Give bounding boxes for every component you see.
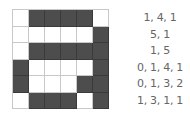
grid-cell: [45, 43, 61, 60]
grid-cell: [45, 60, 61, 77]
grid-cell: [61, 60, 77, 77]
run-length-encoding-list: 1, 4, 1 5, 1 1, 5 0, 1, 4, 1 0, 1, 3, 2 …: [132, 10, 188, 109]
grid-cell: [77, 43, 93, 60]
encoding-row-5: 0, 1, 3, 2: [132, 76, 188, 93]
encoding-row-2: 5, 1: [132, 27, 188, 44]
grid-cell: [13, 27, 29, 44]
grid-cell: [77, 10, 93, 27]
grid-cell: [13, 10, 29, 27]
grid-cell: [61, 76, 77, 93]
grid-cell: [93, 93, 109, 110]
grid-cell: [13, 43, 29, 60]
grid-cell: [93, 60, 109, 77]
grid-cell: [61, 43, 77, 60]
grid-cell: [93, 43, 109, 60]
grid-cell: [77, 76, 93, 93]
grid-cell: [45, 27, 61, 44]
grid-cell: [29, 43, 45, 60]
grid-cell: [45, 93, 61, 110]
grid-cell: [61, 27, 77, 44]
pixel-grid: [12, 9, 109, 109]
grid-cell: [29, 93, 45, 110]
grid-cell: [93, 76, 109, 93]
grid-cell: [77, 93, 93, 110]
encoding-row-1: 1, 4, 1: [132, 10, 188, 27]
grid-cell: [77, 27, 93, 44]
grid-cell: [29, 60, 45, 77]
grid-cell: [45, 76, 61, 93]
grid-cell: [13, 60, 29, 77]
grid-cell: [77, 60, 93, 77]
grid-cell: [29, 27, 45, 44]
grid-cell: [13, 93, 29, 110]
grid-cell: [29, 10, 45, 27]
encoding-row-4: 0, 1, 4, 1: [132, 60, 188, 77]
grid-cell: [61, 93, 77, 110]
encoding-row-6: 1, 3, 1, 1: [132, 93, 188, 110]
grid-cell: [61, 10, 77, 27]
grid-cell: [45, 10, 61, 27]
grid-cell: [13, 76, 29, 93]
grid-cell: [93, 10, 109, 27]
grid-cell: [29, 76, 45, 93]
grid-cell: [93, 27, 109, 44]
encoding-row-3: 1, 5: [132, 43, 188, 60]
